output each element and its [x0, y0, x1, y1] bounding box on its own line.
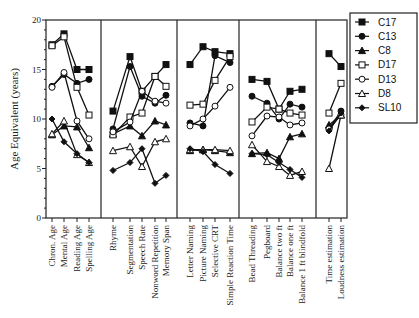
series-layer: [49, 31, 345, 186]
open-square-marker-icon: [61, 34, 67, 40]
x-tick-label: Nonword Repetition: [150, 225, 160, 299]
series-c8: [49, 112, 345, 162]
open-circle-marker-icon: [276, 114, 282, 120]
open-square-marker-icon: [287, 110, 293, 116]
legend-label: D8: [378, 88, 391, 99]
filled-square-marker-icon: [338, 64, 344, 70]
series-line: [113, 149, 166, 184]
filled-circle-marker-icon: [127, 64, 133, 70]
legend-label: D17: [378, 59, 397, 70]
open-circle-marker-icon: [127, 119, 133, 125]
series-c17: [49, 31, 344, 114]
filled-square-marker-icon: [359, 19, 365, 25]
x-tick-label: Chron. Age: [47, 225, 57, 267]
open-circle-marker-icon: [187, 123, 193, 129]
open-square-marker-icon: [249, 119, 255, 125]
open-circle-marker-icon: [61, 69, 67, 75]
legend: C17C13C8D17D13D8SL10: [350, 13, 417, 123]
filled-square-marker-icon: [74, 67, 80, 73]
series-line: [52, 121, 89, 163]
x-tick-label: Spelling Age: [84, 225, 94, 272]
y-tick-label: 10: [32, 114, 42, 124]
y-tick-label: 15: [32, 65, 42, 75]
x-tick-label: Balance 1 ft blindfold: [297, 225, 307, 304]
filled-circle-marker-icon: [249, 93, 255, 99]
filled-square-marker-icon: [249, 76, 255, 82]
series-line: [52, 37, 89, 115]
x-tick-labels: Chron. AgeMental AgeReading AgeSpelling …: [47, 225, 346, 306]
open-circle-marker-icon: [299, 120, 305, 126]
filled-circle-marker-icon: [299, 104, 305, 110]
filled-circle-marker-icon: [212, 53, 218, 59]
open-square-marker-icon: [276, 106, 282, 112]
filled-square-marker-icon: [299, 86, 305, 92]
open-circle-marker-icon: [212, 103, 218, 109]
x-tick-label: Bead Threading: [247, 225, 257, 283]
filled-triangle-marker-icon: [86, 144, 93, 151]
x-tick-label: Rhyme: [108, 225, 118, 251]
open-circle-marker-icon: [287, 122, 293, 128]
series-line: [252, 134, 302, 159]
open-circle-marker-icon: [139, 88, 145, 94]
open-circle-marker-icon: [110, 129, 116, 135]
legend-label: SL10: [378, 102, 402, 113]
open-square-marker-icon: [86, 112, 92, 118]
open-square-marker-icon: [326, 110, 332, 116]
open-triangle-marker-icon: [61, 117, 68, 124]
x-tick-label: Time estimation: [324, 225, 334, 284]
filled-square-marker-icon: [187, 62, 193, 68]
open-square-marker-icon: [187, 102, 193, 108]
open-square-marker-icon: [299, 112, 305, 118]
open-square-marker-icon: [200, 101, 206, 107]
x-tick-label: Balance two ft: [274, 225, 284, 278]
filled-square-marker-icon: [200, 44, 206, 50]
open-circle-marker-icon: [359, 76, 365, 82]
open-square-marker-icon: [152, 73, 158, 79]
open-square-marker-icon: [264, 104, 270, 110]
legend-label: D13: [378, 74, 397, 85]
open-triangle-marker-icon: [139, 163, 146, 170]
filled-circle-marker-icon: [86, 76, 92, 82]
filled-diamond-marker-icon: [227, 170, 233, 176]
filled-square-marker-icon: [287, 88, 293, 94]
open-triangle-marker-icon: [163, 135, 170, 142]
x-tick-label: Picture Naming: [198, 225, 208, 282]
open-circle-marker-icon: [163, 100, 169, 106]
filled-square-marker-icon: [86, 67, 92, 73]
x-tick-label: Simple Reaction Time: [225, 225, 235, 306]
filled-triangle-marker-icon: [299, 130, 306, 137]
y-tick-label: 0: [37, 213, 42, 223]
filled-square-marker-icon: [163, 62, 169, 68]
series-line: [190, 47, 230, 65]
legend-label: C17: [378, 17, 397, 28]
x-tick-label: Segmentation: [125, 225, 135, 275]
open-triangle-marker-icon: [127, 143, 134, 150]
x-tick-label: Mental Age: [59, 225, 69, 267]
filled-diamond-marker-icon: [49, 116, 55, 122]
legend-label: C8: [378, 45, 391, 56]
filled-triangle-marker-icon: [152, 117, 159, 124]
open-circle-marker-icon: [74, 118, 80, 124]
filled-circle-marker-icon: [163, 92, 169, 98]
open-circle-marker-icon: [49, 84, 55, 90]
open-square-marker-icon: [49, 43, 55, 49]
filled-square-marker-icon: [264, 78, 270, 84]
x-tick-label: Reading Age: [72, 225, 82, 272]
filled-square-marker-icon: [326, 51, 332, 57]
series-line: [190, 57, 230, 106]
filled-diamond-marker-icon: [110, 167, 116, 173]
filled-circle-marker-icon: [200, 123, 206, 129]
open-circle-marker-icon: [264, 113, 270, 119]
line-chart: 05101520 Chron. AgeMental AgeReading Age…: [0, 0, 419, 318]
series-line: [190, 87, 230, 126]
filled-square-marker-icon: [110, 108, 116, 114]
open-square-marker-icon: [163, 83, 169, 89]
series-line: [52, 119, 89, 163]
x-tick-label: Memory Span: [161, 225, 171, 277]
filled-square-marker-icon: [127, 54, 133, 60]
x-tick-label: Speech Rate: [137, 225, 147, 270]
open-circle-marker-icon: [249, 133, 255, 139]
y-axis-label: Age Equivalent (years): [8, 68, 21, 170]
open-circle-marker-icon: [86, 136, 92, 142]
open-square-marker-icon: [212, 77, 218, 83]
